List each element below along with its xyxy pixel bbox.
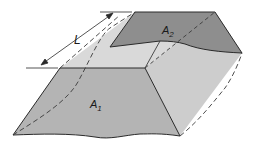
arrowhead-bottom: [41, 59, 48, 65]
length-label: L: [74, 33, 81, 47]
arrowhead-top: [106, 13, 113, 19]
prismatoid-diagram: L A2 A1: [0, 0, 255, 147]
